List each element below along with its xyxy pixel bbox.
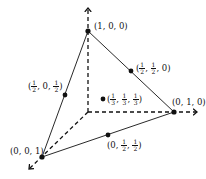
label-half-0-half: (12, 0, 12) bbox=[28, 80, 63, 93]
point-half-half-0 bbox=[129, 69, 134, 74]
point-v100 bbox=[85, 28, 90, 33]
point-v010 bbox=[171, 109, 176, 114]
label-half-half-0: (12, 12, 0) bbox=[136, 62, 171, 75]
point-0-half-half bbox=[106, 133, 111, 138]
axis-down-left bbox=[29, 112, 88, 169]
point-half-0-half bbox=[63, 93, 68, 98]
label-v010: (0, 1, 0) bbox=[172, 97, 206, 107]
label-0-half-half: (0, 12, 12) bbox=[107, 139, 142, 152]
label-centroid: (13, 13, 13) bbox=[107, 93, 142, 106]
point-centroid bbox=[101, 97, 106, 102]
label-v001: (0, 0, 1) bbox=[10, 146, 44, 156]
label-v100: (1, 0, 0) bbox=[94, 21, 128, 31]
